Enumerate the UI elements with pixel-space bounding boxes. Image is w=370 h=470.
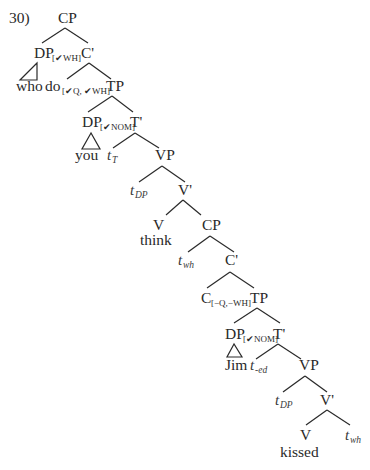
- edge-tp-tbar: [112, 96, 133, 112]
- node-tp: TP: [106, 77, 124, 94]
- node-embedded-t-bar: T': [273, 325, 285, 342]
- trace-t-T: t T: [107, 147, 118, 165]
- edge-ecp-cbar: [210, 236, 234, 252]
- node-vp: VP: [155, 146, 175, 163]
- node-dp-label: DP: [82, 113, 102, 130]
- edge-vp-tdp: [139, 166, 162, 182]
- node-c-bar: C': [81, 44, 94, 61]
- node-embedded-vp: VP: [299, 356, 319, 373]
- node-do-label: do: [45, 77, 61, 94]
- node-dp-label: DP: [225, 325, 245, 342]
- node-c-label: C: [201, 289, 211, 306]
- node-embedded-v-bar: V': [320, 391, 334, 408]
- edge-cp-cbar: [65, 28, 88, 43]
- edge-evp-tdp: [283, 376, 305, 392]
- edge-tp-dp: [88, 96, 112, 112]
- node-embedded-c: C [−Q,−WH]: [201, 289, 251, 308]
- node-c-features: [−Q,−WH]: [211, 298, 251, 308]
- edge-evp-vbar: [305, 376, 327, 392]
- trace-t-ed: t -ed: [250, 357, 267, 375]
- edge-ecp-twh: [188, 236, 210, 252]
- trace-sub: wh: [183, 260, 194, 270]
- node-cp: CP: [58, 9, 77, 26]
- edge-cbar-c: [67, 63, 89, 79]
- node-dp-features: [✔WH]: [52, 53, 81, 63]
- trace-t-wh: t wh: [178, 252, 194, 270]
- edge-tbar-t: [113, 133, 135, 148]
- example-number: 30): [9, 9, 30, 27]
- leaf-you: you: [75, 146, 99, 163]
- trace-sub: T: [112, 155, 118, 165]
- trace-embedded-t-wh: t wh: [345, 427, 361, 445]
- node-embedded-c-bar: C': [225, 251, 238, 268]
- edge-etbar-t: [256, 344, 278, 359]
- edge-cp-dp: [42, 28, 65, 43]
- trace-embedded-t-DP: t DP: [275, 392, 293, 410]
- edge-etp-tbar: [257, 308, 280, 323]
- leaf-kissed: kissed: [280, 443, 319, 460]
- node-embedded-tp: TP: [250, 289, 268, 306]
- trace-sub: wh: [350, 435, 361, 445]
- edge-evbar-v: [306, 410, 327, 425]
- leaf-think: think: [140, 231, 172, 248]
- edge-vp-vbar: [162, 166, 185, 182]
- leaf-jim: Jim: [225, 356, 247, 373]
- node-dp-label: DP: [34, 44, 54, 61]
- edge-vbar-v: [166, 200, 183, 215]
- node-spec-tp-dp: DP [✔NOM]: [82, 113, 135, 132]
- trace-sub: DP: [279, 400, 293, 410]
- node-embedded-spec-dp: DP [✔NOM]: [225, 325, 278, 344]
- edge-ecbar-c: [207, 272, 230, 288]
- trace-sub: -ed: [255, 365, 267, 375]
- leaf-who: who: [16, 77, 43, 94]
- node-spec-cp-dp: DP [✔WH]: [34, 44, 81, 63]
- node-v-bar: V': [178, 181, 192, 198]
- edge-etp-dp: [234, 308, 257, 323]
- node-embedded-cp: CP: [202, 216, 221, 233]
- node-do-features: [✔Q, ✔WH]: [62, 86, 110, 96]
- trace-sub: DP: [134, 190, 148, 200]
- trace-t-DP: t DP: [130, 182, 148, 200]
- edge-etbar-vp: [278, 344, 301, 359]
- node-t-bar: T': [130, 113, 142, 130]
- edge-vbar-cp: [183, 200, 201, 215]
- node-c-do: do [✔Q, ✔WH]: [45, 77, 110, 96]
- edge-evbar-twh: [327, 410, 350, 425]
- syntax-tree: 30) CP DP [✔WH] C' who do [✔Q, ✔WH] TP D…: [0, 0, 370, 470]
- node-embedded-v: V: [300, 426, 312, 443]
- edge-ecbar-tp: [230, 272, 254, 288]
